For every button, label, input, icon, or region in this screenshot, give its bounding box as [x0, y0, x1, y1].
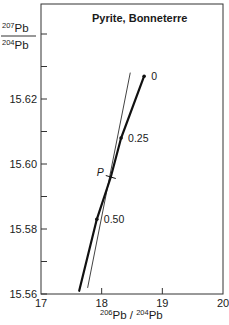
- x-tick-label: 19: [156, 297, 168, 309]
- x-tick-label: 20: [217, 297, 229, 309]
- p-label: P: [97, 166, 104, 178]
- chart-title: Pyrite, Bonneterre: [92, 12, 187, 24]
- x-axis-label: 206Pb / 204Pb: [100, 308, 163, 321]
- growth-curve-line: [79, 76, 144, 291]
- svg-text:207Pb: 207Pb: [2, 21, 29, 34]
- data-point: [95, 217, 99, 221]
- y-tick-label: 15.62: [9, 93, 37, 105]
- y-tick-label: 15.60: [9, 158, 37, 170]
- data-point: [142, 74, 146, 78]
- point-label: 0.25: [128, 132, 149, 144]
- point-label: 0.50: [104, 213, 125, 225]
- y-tick-label: 15.56: [9, 288, 37, 300]
- x-tick-label: 17: [35, 297, 47, 309]
- y-tick-label: 15.58: [9, 223, 37, 235]
- reference-line: [88, 73, 131, 288]
- data-point: [119, 136, 123, 140]
- y-axis-label: 207Pb 204Pb: [1, 21, 36, 51]
- data-series: [79, 73, 144, 291]
- x-axis-ticks: 17181920: [35, 288, 229, 309]
- chart: Pyrite, Bonneterre 207Pb 204Pb 15.5615.5…: [0, 0, 229, 325]
- svg-text:204Pb: 204Pb: [2, 38, 29, 51]
- point-label: 0: [151, 70, 157, 82]
- plot-frame: [41, 4, 223, 294]
